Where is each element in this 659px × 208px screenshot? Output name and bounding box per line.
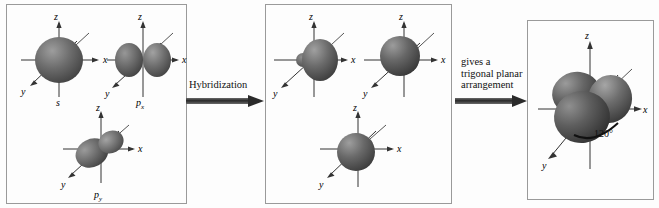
bond-angle-label: 120°: [594, 128, 613, 139]
axis-label-y: y: [60, 179, 66, 190]
axis-label-y: y: [104, 88, 110, 99]
axis-label-y: y: [318, 179, 324, 190]
trigonal-planar-panel: z x y: [527, 20, 654, 200]
hybrid-orbital-2: z x y: [360, 13, 452, 109]
result-axis-labels: z x y: [528, 21, 655, 201]
hybrid-orbital-3: z x y: [314, 109, 410, 201]
axis-label-x: x: [137, 143, 143, 154]
orbital-label-py: py: [93, 189, 103, 203]
axis-label-x: x: [396, 143, 402, 154]
axis-label-x: x: [350, 54, 356, 65]
axis-label-y: y: [272, 88, 278, 99]
hybrid-orbital-1: z x y: [270, 13, 362, 109]
orbital-py: z x y py: [53, 109, 157, 201]
axis-label-x: x: [642, 104, 648, 115]
axis-label-z: z: [308, 11, 313, 22]
axis-label-z: z: [584, 30, 589, 41]
hybrid-orbitals-panel: z x y: [265, 4, 452, 204]
arrangement-arrow-label: gives a trigonal planar arrangement: [461, 56, 523, 91]
axis-label-z: z: [95, 102, 100, 113]
axis-label-x: x: [440, 54, 446, 65]
axis-label-y: y: [20, 86, 26, 97]
hybridization-arrow-label: Hybridization: [189, 79, 247, 91]
axis-label-x: x: [181, 54, 187, 65]
axis-label-y: y: [541, 160, 547, 171]
axis-label-z: z: [53, 11, 58, 22]
hybridization-arrow: [186, 93, 264, 105]
orbital-label-s: s: [56, 97, 60, 108]
axis-label-z: z: [352, 102, 357, 113]
atomic-orbitals-panel: z x y s: [6, 4, 187, 204]
axis-label-z: z: [398, 11, 403, 22]
axis-label-y: y: [362, 88, 368, 99]
axis-label-z: z: [137, 11, 142, 22]
arrangement-arrow: [455, 93, 527, 105]
figure-canvas: z x y s: [0, 0, 659, 208]
orbital-px: z x y px: [103, 13, 189, 109]
